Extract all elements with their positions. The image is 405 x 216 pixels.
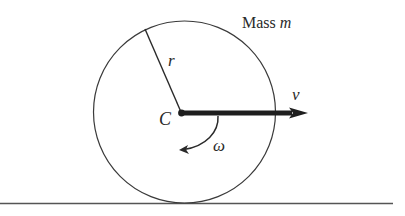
mass-word: Mass: [242, 14, 276, 31]
mass-label: Mass m: [242, 15, 291, 31]
rolling-disk-diagram: Mass m r C v ω: [0, 0, 405, 216]
mass-symbol: m: [280, 14, 292, 31]
radius-label: r: [168, 52, 175, 69]
angular-velocity-label: ω: [213, 137, 225, 154]
center-point: [178, 110, 185, 117]
diagram-canvas: [0, 0, 405, 216]
center-label: C: [159, 110, 171, 128]
velocity-label: v: [292, 86, 300, 103]
radius-line: [145, 29, 181, 112]
